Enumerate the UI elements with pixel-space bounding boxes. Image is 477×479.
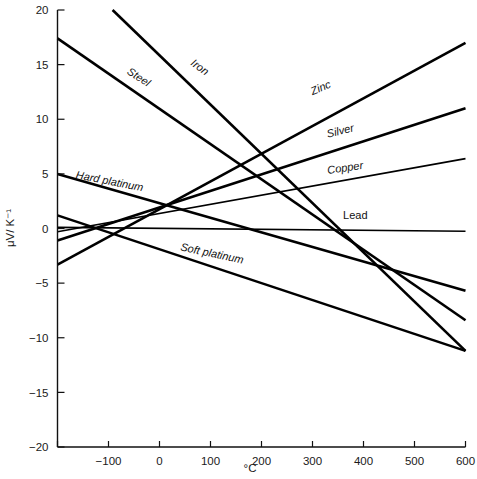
series-label-iron: Iron xyxy=(189,57,211,78)
y-tick-label: 15 xyxy=(36,59,49,71)
series-label-lead: Lead xyxy=(343,209,367,221)
y-tick-label: 10 xyxy=(36,113,49,125)
y-tick-label: −10 xyxy=(29,332,49,344)
series-line-copper xyxy=(58,159,466,232)
series-labels-group: IronSteelHard platinumSoft platinumZincS… xyxy=(75,57,368,266)
y-tick-label: 0 xyxy=(42,223,48,235)
series-line-iron xyxy=(113,10,466,351)
x-tick-label: 300 xyxy=(303,455,322,467)
series-line-soft-platinum xyxy=(58,215,466,350)
x-axis-title: °C xyxy=(244,462,257,474)
series-label-steel: Steel xyxy=(125,65,153,89)
x-tick-label: 400 xyxy=(354,455,373,467)
series-label-copper: Copper xyxy=(326,159,365,176)
x-tick-label: 0 xyxy=(156,455,162,467)
series-label-silver: Silver xyxy=(325,121,356,140)
chart-canvas: −1000100200300400500600−20−15−10−5051015… xyxy=(0,0,477,479)
y-tick-label: −20 xyxy=(29,441,49,453)
y-tick-label: 5 xyxy=(42,168,48,180)
y-tick-label: −5 xyxy=(35,277,48,289)
series-label-zinc: Zinc xyxy=(308,78,333,98)
x-tick-label: −100 xyxy=(96,455,122,467)
y-tick-label: −15 xyxy=(29,387,49,399)
y-tick-label: 20 xyxy=(36,4,49,16)
y-axis-title: μV/ K⁻¹ xyxy=(4,209,16,247)
series-label-soft-platinum: Soft platinum xyxy=(179,241,244,266)
x-tick-label: 600 xyxy=(456,455,475,467)
thermoelectric-chart: −1000100200300400500600−20−15−10−5051015… xyxy=(0,0,477,479)
x-tick-label: 100 xyxy=(201,455,220,467)
x-tick-label: 500 xyxy=(405,455,424,467)
